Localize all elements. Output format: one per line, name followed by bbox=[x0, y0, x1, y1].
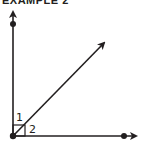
horizontal-ray-point bbox=[121, 133, 127, 139]
angle-label-1: 1 bbox=[16, 111, 23, 124]
diagonal-ray bbox=[13, 43, 104, 136]
angle-diagram: 1 2 bbox=[0, 0, 149, 145]
vertex-point bbox=[10, 133, 16, 139]
angle-label-2: 2 bbox=[29, 123, 36, 136]
vertical-ray-point bbox=[10, 21, 16, 27]
